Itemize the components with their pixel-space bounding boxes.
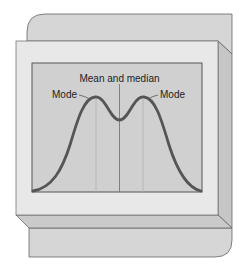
bottom-panel <box>29 228 232 257</box>
bimodal-distribution-diagram: Mean and median Mode Mode <box>0 0 246 265</box>
right-bevel <box>218 41 232 228</box>
mean-median-label: Mean and median <box>79 73 159 84</box>
left-mode-label: Mode <box>52 89 77 100</box>
bottom-bevel <box>16 215 232 228</box>
right-mode-label: Mode <box>160 89 185 100</box>
